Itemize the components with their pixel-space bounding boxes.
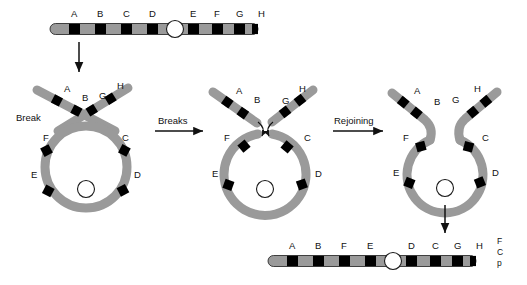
label-loop-G: G	[99, 91, 106, 101]
label-rejoined-E: E	[393, 168, 399, 178]
label-top-A: A	[71, 9, 77, 19]
label-rejoined-B: B	[434, 97, 440, 107]
rejoined-panel-graphic	[392, 92, 497, 213]
label-top-D: D	[149, 9, 156, 19]
label-broken-F: F	[224, 133, 230, 143]
label-result-G: G	[454, 241, 461, 251]
label-loop-F: F	[43, 133, 49, 143]
label-rejoining: Rejoining	[334, 115, 374, 126]
label-top-F: F	[214, 9, 220, 19]
label-result-D: D	[408, 241, 415, 251]
label-loop-B: B	[82, 93, 88, 103]
label-result-F: F	[341, 241, 347, 251]
figure-canvas: A B C D E F G H A B G H F C E D Break A …	[0, 0, 527, 285]
label-broken-H: H	[299, 84, 306, 94]
label-top-B: B	[97, 9, 103, 19]
label-break: Break	[16, 112, 41, 123]
label-loop-E: E	[31, 170, 37, 180]
label-result-E: E	[367, 241, 373, 251]
figure-caption: F C p	[497, 236, 527, 269]
label-broken-C: C	[304, 133, 311, 143]
label-rejoined-H: H	[474, 84, 481, 94]
caption-line-1: F	[497, 236, 527, 247]
label-result-H: H	[476, 241, 483, 251]
loop-panel-graphic	[37, 88, 131, 208]
label-breaks: Breaks	[158, 115, 188, 126]
label-rejoined-G: G	[452, 95, 459, 105]
label-broken-A: A	[236, 86, 242, 96]
caption-line-2: C	[497, 247, 527, 258]
label-rejoined-C: C	[482, 133, 489, 143]
label-top-E: E	[190, 9, 196, 19]
label-top-C: C	[123, 9, 130, 19]
label-loop-H: H	[117, 81, 124, 91]
label-loop-C: C	[122, 133, 129, 143]
label-broken-D: D	[315, 169, 322, 179]
label-loop-A: A	[64, 84, 70, 94]
label-loop-D: D	[134, 170, 141, 180]
diagram-svg	[0, 0, 527, 285]
label-result-C: C	[432, 241, 439, 251]
label-broken-G: G	[282, 96, 289, 106]
normal-chromosome-graphic	[50, 21, 258, 38]
inverted-chromosome-graphic	[268, 253, 476, 270]
label-result-B: B	[315, 241, 321, 251]
label-rejoined-A: A	[414, 86, 420, 96]
broken-panel-graphic	[213, 90, 313, 215]
label-broken-E: E	[212, 169, 218, 179]
label-broken-B: B	[254, 95, 260, 105]
label-top-G: G	[236, 9, 243, 19]
label-rejoined-F: F	[403, 133, 409, 143]
caption-line-3: p	[497, 258, 527, 269]
label-rejoined-D: D	[492, 168, 499, 178]
label-top-H: H	[258, 9, 265, 19]
label-result-A: A	[289, 241, 295, 251]
